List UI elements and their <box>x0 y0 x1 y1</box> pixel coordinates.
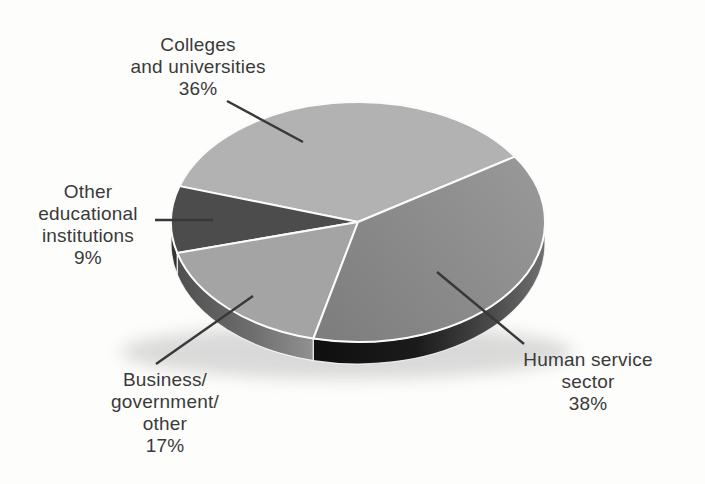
pie-chart-figure: Colleges and universities 36% Other educ… <box>0 0 705 484</box>
slice-label-colleges-and-universities: Colleges and universities 36% <box>98 34 298 100</box>
slice-label-business-government-other: Business/ government/ other 17% <box>85 369 245 457</box>
slice-label-other-educational-institutions: Other educational institutions 9% <box>8 181 168 269</box>
slice-label-human-service-sector: Human service sector 38% <box>508 349 668 415</box>
